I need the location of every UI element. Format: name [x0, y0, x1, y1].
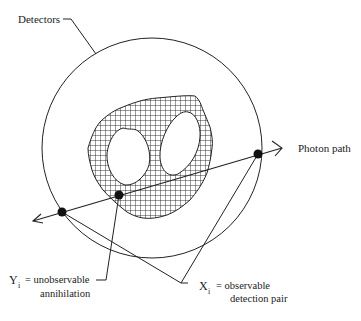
annihilation-point: [115, 191, 124, 200]
y-definition-line2: annihilation: [40, 288, 91, 299]
x-definition-line1: = observable: [216, 280, 270, 291]
photon-path-label: Photon path: [298, 142, 351, 154]
detectors-leader: [63, 19, 96, 54]
y-symbol: Y: [9, 273, 18, 287]
x-definition-line2: detection pair: [230, 293, 288, 304]
y-definition-line1: = unobservable: [25, 274, 90, 285]
x-subscript: i: [208, 287, 211, 296]
x-symbol: X: [199, 279, 208, 293]
pet-detector-diagram: Detectors Photon path Y i = unobservable…: [0, 0, 361, 321]
x-leader-left: [62, 212, 181, 283]
y-leader: [96, 195, 119, 280]
detectors-label: Detectors: [18, 13, 60, 25]
right-detection-point: [254, 150, 263, 159]
left-detection-point: [58, 208, 67, 217]
y-subscript: i: [18, 281, 21, 290]
